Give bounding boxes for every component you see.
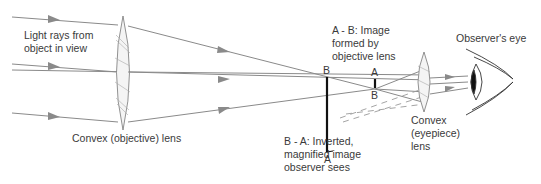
telescope-diagram	[0, 0, 541, 184]
label-image-ba: B - A: Inverted, magnified image observe…	[284, 135, 361, 174]
exit-rays	[430, 74, 468, 94]
label-eyepiece-lens: Convex (eyepiece) lens	[411, 114, 460, 153]
objective-lens	[115, 16, 130, 130]
eyepiece-lens	[418, 52, 430, 112]
label-image-ab: A - B: Image formed by objective lens	[332, 24, 396, 63]
point-real-a: A	[371, 66, 378, 78]
point-virtual-b: B	[323, 64, 330, 76]
label-objective-lens: Convex (objective) lens	[72, 132, 181, 145]
point-virtual-a: A	[324, 153, 331, 165]
point-real-b: B	[371, 89, 378, 101]
label-light-rays: Light rays from object in view	[24, 29, 93, 55]
observer-eye-icon	[466, 49, 513, 115]
label-observer-eye: Observer's eye	[456, 32, 526, 45]
